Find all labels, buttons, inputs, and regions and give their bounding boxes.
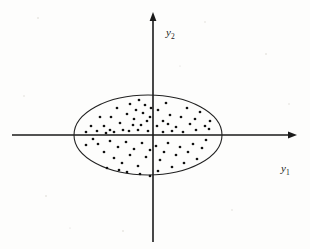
- data-point: [192, 143, 195, 146]
- data-point: [126, 113, 129, 116]
- data-point: [139, 173, 142, 176]
- data-point: [165, 102, 168, 105]
- figure-container: y2 y1: [0, 0, 310, 249]
- data-point: [121, 162, 124, 165]
- data-point: [205, 139, 208, 142]
- data-point: [92, 138, 95, 141]
- data-point: [119, 122, 122, 125]
- data-point: [175, 154, 178, 157]
- data-point: [99, 116, 102, 119]
- data-point: [85, 131, 88, 134]
- data-point: [183, 162, 186, 165]
- data-point: [126, 171, 129, 174]
- data-point: [113, 131, 116, 134]
- data-point: [110, 116, 113, 119]
- data-point: [141, 142, 144, 145]
- data-point: [135, 109, 138, 112]
- data-point: [195, 129, 198, 132]
- data-point: [179, 146, 182, 149]
- data-point: [182, 131, 185, 134]
- data-point: [149, 175, 152, 178]
- data-point: [118, 169, 121, 172]
- data-point: [171, 166, 174, 169]
- data-point: [149, 149, 152, 152]
- data-point: [209, 120, 212, 123]
- data-point: [129, 103, 132, 106]
- data-point: [96, 130, 99, 133]
- data-point: [204, 125, 207, 128]
- data-point: [109, 140, 112, 143]
- data-point: [138, 99, 141, 102]
- data-point: [140, 124, 143, 127]
- data-point: [137, 129, 140, 132]
- y2-label-subscript: 2: [171, 32, 175, 41]
- data-point: [157, 109, 160, 112]
- data-point: [186, 107, 189, 110]
- data-point: [208, 128, 211, 131]
- data-point: [97, 143, 100, 146]
- data-point: [187, 151, 190, 154]
- data-point: [189, 123, 192, 126]
- data-point: [201, 147, 204, 150]
- data-point: [133, 148, 136, 151]
- data-point: [125, 141, 128, 144]
- y1-label-subscript: 1: [286, 168, 290, 177]
- data-point: [196, 158, 199, 161]
- data-point: [147, 130, 150, 133]
- data-point: [159, 159, 162, 162]
- data-point: [162, 120, 165, 123]
- data-point: [175, 126, 178, 129]
- data-point: [137, 165, 140, 168]
- data-point: [180, 116, 183, 119]
- data-point: [146, 120, 149, 123]
- data-point: [132, 124, 135, 127]
- data-point: [169, 114, 172, 117]
- scatter-plot-canvas: y2 y1: [0, 0, 310, 249]
- data-point: [90, 125, 93, 128]
- data-point: [156, 125, 159, 128]
- data-point: [150, 107, 153, 110]
- data-point: [162, 131, 165, 134]
- data-point: [167, 123, 170, 126]
- data-point: [149, 116, 152, 119]
- data-point: [133, 118, 136, 121]
- data-point: [117, 146, 120, 149]
- data-point: [199, 111, 202, 114]
- data-point: [116, 107, 119, 110]
- data-point: [128, 130, 131, 133]
- data-point: [171, 130, 174, 133]
- data-point: [155, 145, 158, 148]
- data-point: [194, 118, 197, 121]
- data-point: [144, 104, 147, 107]
- data-point: [85, 144, 88, 147]
- data-point: [157, 170, 160, 173]
- data-point: [142, 112, 145, 115]
- data-point: [109, 129, 112, 132]
- data-point: [129, 154, 132, 157]
- data-point: [103, 125, 106, 128]
- data-point: [113, 157, 116, 160]
- plot-background: [0, 0, 310, 249]
- data-point: [103, 151, 106, 154]
- data-point: [106, 167, 109, 170]
- data-point: [105, 132, 108, 135]
- data-point: [167, 142, 170, 145]
- data-point: [122, 129, 125, 132]
- data-point: [145, 156, 148, 159]
- data-point: [163, 151, 166, 154]
